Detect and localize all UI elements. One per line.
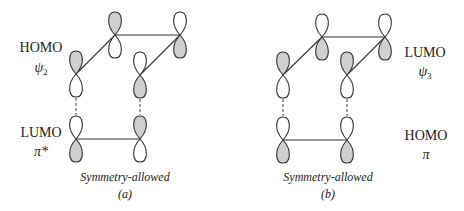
lower-lobe-unshaded	[134, 139, 147, 162]
upper-lobe-shaded	[134, 116, 147, 139]
diene-p-orbital-4	[341, 52, 354, 98]
lower-lobe-shaded	[134, 75, 147, 98]
upper-lobe-shaded	[341, 52, 354, 75]
diene-bond	[140, 35, 180, 75]
panel-a-bottom-label: LUMO	[20, 125, 61, 140]
panel-b-p-orbitals	[277, 14, 392, 163]
panel-a-symmetry-allowed: HOMO ψ2 LUMO π* Symmetry-allowed (a)	[20, 12, 187, 201]
diene-p-orbital-1	[277, 52, 290, 98]
panel-a-bottom-symbol: π*	[34, 144, 48, 159]
upper-lobe-unshaded	[316, 14, 329, 37]
panel-b-bottom-label: HOMO	[405, 128, 448, 143]
panel-b-caption: Symmetry-allowed	[283, 170, 373, 184]
lower-lobe-unshaded	[341, 75, 354, 98]
upper-lobe-unshaded	[174, 12, 187, 35]
diene-p-orbital-1	[70, 51, 83, 97]
panel-a-bonds	[76, 35, 180, 139]
upper-lobe-shaded	[70, 51, 83, 74]
upper-lobe-unshaded	[379, 14, 392, 37]
lower-lobe-shaded	[341, 140, 354, 163]
panel-a-letter: (a)	[118, 187, 132, 201]
lower-lobe-shaded	[316, 37, 329, 60]
diene-p-orbital-4	[134, 52, 147, 98]
upper-lobe-shaded	[277, 52, 290, 75]
upper-lobe-unshaded	[134, 52, 147, 75]
panel-a-top-symbol: ψ2	[34, 60, 47, 77]
panel-b-bottom-symbol: π	[422, 147, 430, 162]
lower-lobe-unshaded	[70, 74, 83, 97]
upper-lobe-unshaded	[277, 117, 290, 140]
lower-lobe-unshaded	[277, 75, 290, 98]
panel-b-bonds	[283, 37, 385, 140]
panel-b-symmetry-allowed: LUMO ψ3 HOMO π Symmetry-allowed (b)	[277, 14, 448, 201]
lower-lobe-shaded	[174, 35, 187, 58]
upper-lobe-unshaded	[341, 117, 354, 140]
lower-lobe-unshaded	[109, 35, 122, 58]
lower-lobe-shaded	[277, 140, 290, 163]
upper-lobe-unshaded	[70, 116, 83, 139]
orbital-diagram: HOMO ψ2 LUMO π* Symmetry-allowed (a) LUM…	[0, 0, 464, 211]
lower-lobe-shaded	[70, 139, 83, 162]
upper-lobe-shaded	[109, 12, 122, 35]
panel-b-top-symbol: ψ3	[418, 64, 432, 81]
panel-a-top-label: HOMO	[20, 40, 63, 55]
panel-b-top-label: LUMO	[404, 45, 445, 60]
panel-b-letter: (b)	[321, 187, 335, 201]
panel-a-caption: Symmetry-allowed	[80, 170, 170, 184]
lower-lobe-shaded	[379, 37, 392, 60]
